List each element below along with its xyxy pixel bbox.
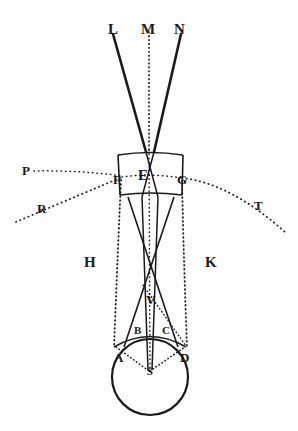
label-N: N [174,22,185,37]
solid-ray-L [113,34,146,152]
label-K: K [205,255,217,270]
label-R: R [37,202,46,215]
label-T: T [254,199,263,212]
dotted-envelope-F-to-A [114,180,121,347]
label-P: P [22,164,30,177]
lens-top-edge [118,153,183,156]
lens-bottom-edge [120,193,182,195]
label-M: M [141,22,155,37]
label-F: F [113,173,121,186]
label-A: A [114,351,123,364]
label-H: H [84,255,96,270]
label-L: L [108,22,118,37]
dotted-arc-R-to-F [16,178,120,222]
dotted-line-P-to-F [34,171,122,176]
label-S: S [147,366,153,377]
label-E: E [138,168,148,183]
label-B: B [134,325,141,336]
solid-ray-inner-left-to-S [142,197,148,370]
label-D: D [180,351,189,364]
label-C: C [162,325,170,336]
solid-ray-N [154,34,181,152]
dotted-arc-G-to-T [182,178,285,232]
label-V: V [146,293,155,306]
optics-figure: L M N P F E G T R H K V B C A D S [0,0,298,431]
label-G: G [177,173,187,186]
dotted-envelope-G-to-D [182,181,187,347]
